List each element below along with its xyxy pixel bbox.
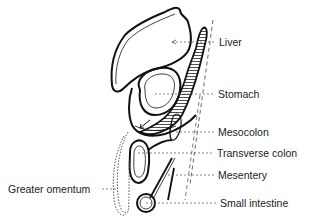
- label-small-intestine: Small intestine: [220, 197, 288, 209]
- arrow-icon: [140, 120, 150, 128]
- posterior-line-2: [185, 95, 200, 200]
- label-liver: Liver: [219, 36, 242, 48]
- label-stomach: Stomach: [218, 88, 259, 100]
- mesentery-shape: [150, 158, 175, 200]
- label-transverse-colon: Transverse colon: [217, 147, 297, 159]
- greater-omentum-shape: [117, 132, 130, 213]
- anatomy-diagram: Liver Stomach Mesocolon Transverse colon…: [0, 0, 310, 224]
- transverse-colon-shape: [130, 140, 172, 183]
- label-greater-omentum: Greater omentum: [8, 183, 90, 195]
- label-mesocolon: Mesocolon: [218, 126, 269, 138]
- label-mesentery: Mesentery: [218, 169, 267, 181]
